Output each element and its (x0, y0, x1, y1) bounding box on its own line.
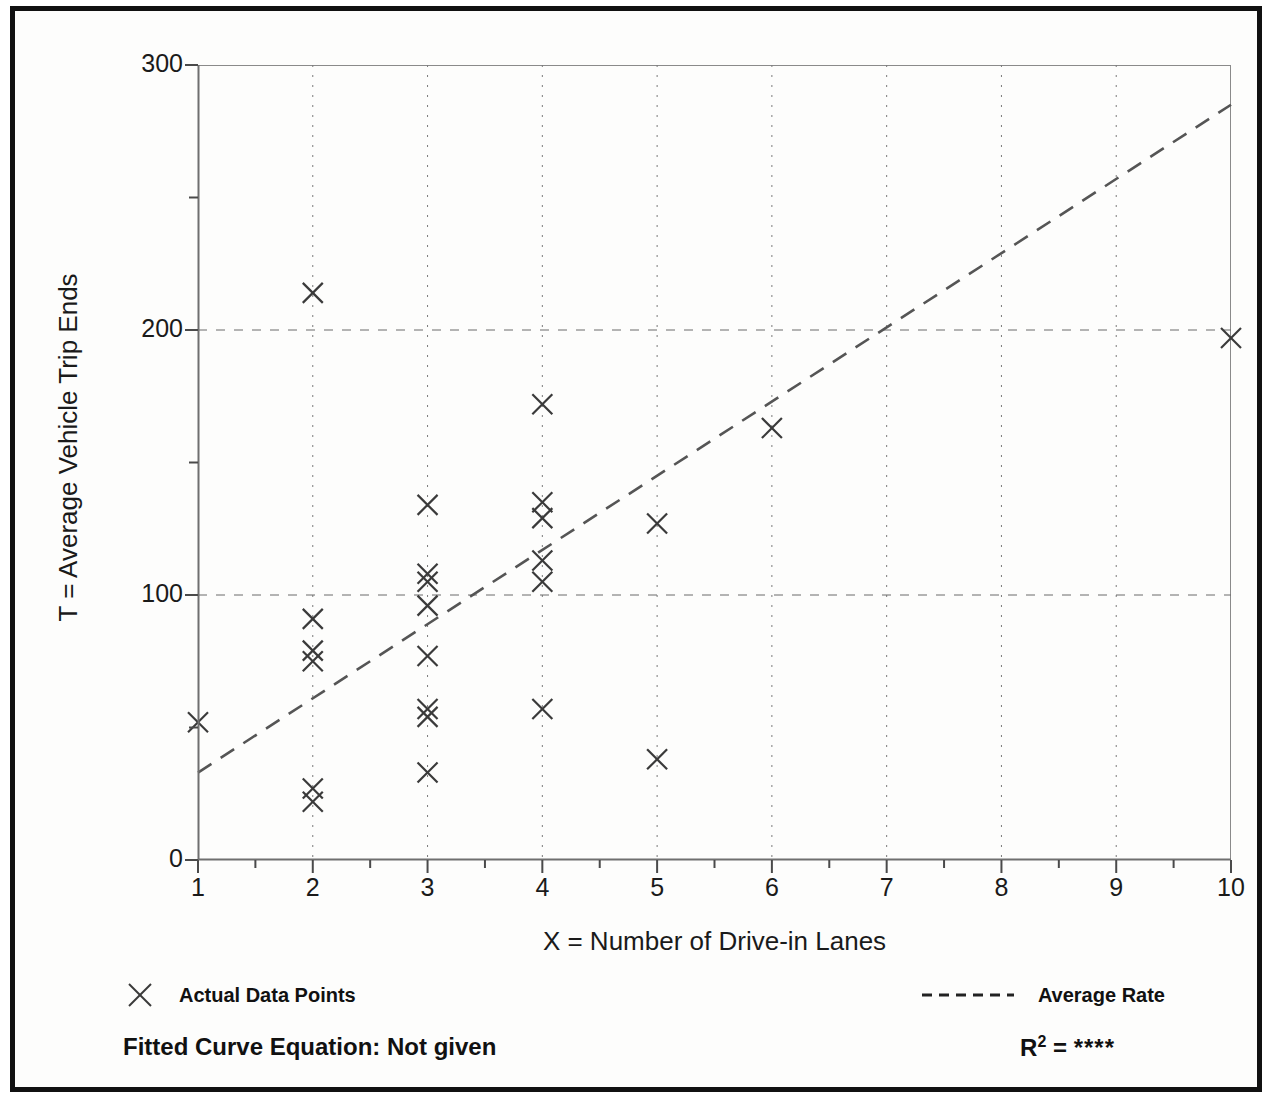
legend-label-actual-data-points: Actual Data Points (179, 984, 356, 1007)
data-point-marker (418, 596, 438, 616)
average-rate-trend-line (198, 105, 1231, 773)
x-axis-title: X = Number of Drive-in Lanes (198, 926, 1231, 957)
plot-area (198, 65, 1231, 860)
legend-entry-actual-data-points: Actual Data Points (123, 974, 356, 1016)
x-axis-tick-label: 6 (742, 873, 802, 902)
r-squared-exponent: 2 (1037, 1033, 1046, 1050)
x-axis-tick-label: 7 (857, 873, 917, 902)
r-squared-equals: = (1046, 1034, 1073, 1061)
data-point-marker (303, 651, 323, 671)
x-axis-tick-label: 8 (971, 873, 1031, 902)
x-axis-tick-label: 5 (627, 873, 687, 902)
r-squared-stars: **** (1074, 1034, 1115, 1061)
data-point-marker (418, 646, 438, 666)
figure-outer-frame: T = Average Vehicle Trip Ends 0100200300… (10, 6, 1262, 1092)
x-axis-tick-label: 1 (168, 873, 228, 902)
chart-footer: Fitted Curve Equation: Not given R2 = **… (115, 1027, 1175, 1075)
y-axis-tick-label: 0 (55, 844, 183, 873)
x-marker-icon (123, 978, 157, 1012)
data-point-marker (418, 495, 438, 515)
x-axis-tick-label: 10 (1201, 873, 1261, 902)
x-axis-tick-label: 2 (283, 873, 343, 902)
r-squared-value: R2 = **** (1020, 1033, 1115, 1062)
data-point-marker (532, 572, 552, 592)
plot-canvas (198, 65, 1231, 860)
legend-entry-average-rate: Average Rate (920, 974, 1165, 1016)
data-point-marker (1221, 328, 1241, 348)
data-point-marker (303, 792, 323, 812)
x-axis-tick-label: 3 (398, 873, 458, 902)
chart-legend: Actual Data Points Average Rate (115, 974, 1175, 1016)
legend-label-average-rate: Average Rate (1038, 984, 1165, 1007)
x-axis-tick-label: 9 (1086, 873, 1146, 902)
y-axis-tick-label: 200 (55, 314, 183, 343)
x-axis-tick-label: 4 (512, 873, 572, 902)
dashed-line-icon (920, 989, 1016, 1001)
data-point-marker (532, 394, 552, 414)
chart-figure: T = Average Vehicle Trip Ends 0100200300… (15, 11, 1267, 1097)
data-point-marker (532, 551, 552, 571)
data-point-marker (303, 641, 323, 661)
y-axis-tick-label: 100 (55, 579, 183, 608)
r-squared-symbol: R (1020, 1034, 1037, 1061)
y-axis-tick-label: 300 (55, 49, 183, 78)
fitted-curve-equation: Fitted Curve Equation: Not given (123, 1033, 496, 1061)
